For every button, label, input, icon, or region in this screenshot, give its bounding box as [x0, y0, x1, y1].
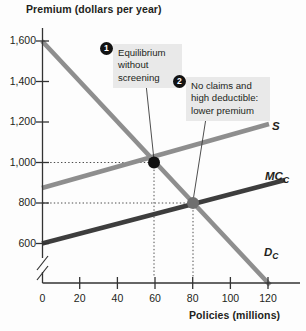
- y-tick-label-1400: 1,400: [0, 75, 36, 87]
- marker-equilibrium-without-screening: [148, 157, 160, 169]
- annotation-2-line-3: lower premium: [191, 105, 265, 117]
- marker-equilibrium-with-screening: [187, 197, 199, 209]
- x-tick-label-80: 80: [178, 292, 208, 304]
- x-tick-label-60: 60: [140, 292, 170, 304]
- y-tick-label-600: 600: [0, 237, 36, 249]
- y-tick-label-1600: 1,600: [0, 34, 36, 46]
- curve-label-s: S: [272, 120, 280, 132]
- curve-label-mcc-text: MC: [265, 170, 283, 182]
- curve-label-mcc-sub: C: [283, 175, 289, 185]
- curve-label-dc-sub: C: [272, 251, 278, 261]
- y-tick-label-1000: 1,000: [0, 156, 36, 168]
- marginal-cost-curve-mcc: [42, 180, 285, 244]
- annotation-1-line-1: Equilibrium: [118, 47, 177, 59]
- annotation-2-line-1: No claims and: [191, 80, 265, 92]
- x-tick-label-40: 40: [102, 292, 132, 304]
- annotation-badge-2: 2: [173, 75, 186, 88]
- leader-line-2: [193, 118, 206, 201]
- supply-curve-s: [42, 124, 269, 188]
- x-tick-label-120: 120: [253, 292, 283, 304]
- curve-label-mcc: MCC: [265, 170, 289, 185]
- annotation-callout-2: No claims and high deductible: lower pre…: [186, 77, 270, 121]
- annotation-1-line-2: without: [118, 59, 177, 71]
- annotation-callout-1: Equilibrium without screening: [113, 44, 182, 88]
- leader-line-1: [146, 84, 154, 160]
- chart-figure: Premium (dollars per year) Policies (mil…: [0, 0, 306, 331]
- curve-label-s-text: S: [272, 120, 280, 132]
- annotation-badge-1: 1: [100, 42, 113, 55]
- x-tick-label-100: 100: [215, 292, 245, 304]
- x-tick-label-0: 0: [28, 292, 58, 304]
- y-tick-label-800: 800: [0, 196, 36, 208]
- x-tick-label-20: 20: [65, 292, 95, 304]
- y-tick-label-1200: 1,200: [0, 115, 36, 127]
- curve-label-dc: DC: [264, 246, 278, 261]
- annotation-1-line-3: screening: [118, 72, 177, 84]
- annotation-2-line-2: high deductible:: [191, 92, 265, 104]
